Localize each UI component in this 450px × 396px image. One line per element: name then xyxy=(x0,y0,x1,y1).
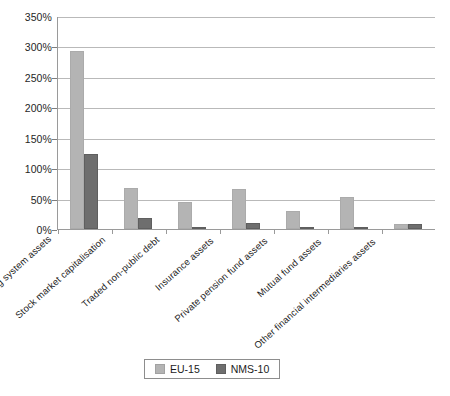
y-tick-label: 150% xyxy=(0,133,52,145)
bar-chart: 350% 300% 250% 200% 150% 100% 50% 0% Ban… xyxy=(0,0,450,396)
bar-nms-10 xyxy=(84,154,98,229)
bar-nms-10 xyxy=(138,218,152,229)
legend-label: NMS-10 xyxy=(231,363,270,375)
y-tick-label: 300% xyxy=(0,41,52,53)
bar-eu-15 xyxy=(232,189,246,229)
plot-area xyxy=(57,17,435,230)
y-tick-label: 350% xyxy=(0,11,52,23)
chart-legend: EU-15 NMS-10 xyxy=(144,359,280,379)
bar-nms-10 xyxy=(246,223,260,229)
bar-group xyxy=(382,17,436,229)
bar-group xyxy=(328,17,382,229)
bar-group xyxy=(112,17,166,229)
bar-nms-10 xyxy=(192,227,206,229)
x-axis-label: Stock market capitalisation xyxy=(13,234,107,320)
bar-group xyxy=(166,17,220,229)
bar-group xyxy=(220,17,274,229)
y-tick-label: 50% xyxy=(0,194,52,206)
legend-item-nms-10: NMS-10 xyxy=(216,363,270,375)
bar-nms-10 xyxy=(300,227,314,229)
bar-group xyxy=(58,17,112,229)
legend-label: EU-15 xyxy=(170,363,200,375)
bar-eu-15 xyxy=(124,188,138,229)
x-axis-label: Private pension fund assets xyxy=(172,235,269,324)
bars-layer xyxy=(58,17,435,229)
bar-eu-15 xyxy=(340,197,354,229)
bar-eu-15 xyxy=(70,51,84,229)
legend-swatch-icon xyxy=(155,364,165,374)
bar-nms-10 xyxy=(408,224,422,229)
y-tick-label: 250% xyxy=(0,72,52,84)
x-axis-category-labels: Banking system assetsStock market capita… xyxy=(0,231,450,351)
legend-swatch-icon xyxy=(216,364,226,374)
legend-item-eu-15: EU-15 xyxy=(155,363,200,375)
bar-eu-15 xyxy=(178,202,192,229)
bar-eu-15 xyxy=(286,211,300,229)
bar-eu-15 xyxy=(394,224,408,229)
y-tick-label: 100% xyxy=(0,163,52,175)
bar-group xyxy=(274,17,328,229)
bar-nms-10 xyxy=(354,227,368,229)
x-axis-label: Other financial intermediaries assets xyxy=(252,236,378,351)
y-tick-label: 200% xyxy=(0,102,52,114)
